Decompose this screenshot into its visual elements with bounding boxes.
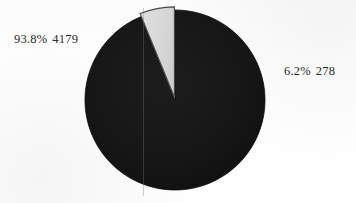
pie-label-major-value: 4179 xyxy=(52,32,78,46)
pie-slice-major[interactable] xyxy=(85,10,265,190)
pie-label-major-percent: 93.8% xyxy=(14,32,47,46)
pie-chart-figure: 93.8%4179 6.2%278 xyxy=(0,0,356,203)
pie-label-minor-percent: 6.2% xyxy=(284,64,311,78)
pie-chart-canvas xyxy=(0,0,356,203)
pie-label-minor-value: 278 xyxy=(316,64,335,78)
pie-label-minor: 6.2%278 xyxy=(284,64,335,79)
pie-label-major: 93.8%4179 xyxy=(14,32,78,47)
